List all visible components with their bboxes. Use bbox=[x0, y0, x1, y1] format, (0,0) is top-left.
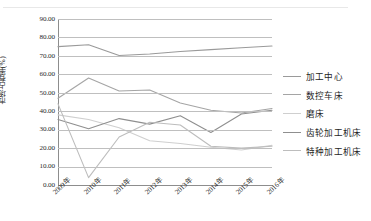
legend-item[interactable]: 齿轮加工机床 bbox=[283, 123, 371, 142]
legend-color-swatch bbox=[283, 113, 301, 114]
gridline bbox=[58, 93, 272, 94]
legend-color-swatch bbox=[283, 150, 301, 151]
gridline bbox=[58, 37, 272, 38]
y-tick-label: 30.00 bbox=[40, 125, 55, 133]
plot-area bbox=[58, 19, 272, 185]
gridline bbox=[58, 74, 272, 75]
gridline bbox=[58, 167, 272, 168]
legend-item[interactable]: 磨床 bbox=[283, 104, 371, 123]
gridline bbox=[58, 130, 272, 131]
legend-item-label: 齿轮加工机床 bbox=[306, 126, 361, 138]
gridline bbox=[58, 111, 272, 112]
legend-item[interactable]: 特种加工机床 bbox=[283, 141, 371, 160]
gridline bbox=[58, 148, 272, 149]
legend-color-swatch bbox=[283, 94, 301, 95]
y-tick-label: 50.00 bbox=[40, 89, 55, 97]
legend-item-label: 数控车床 bbox=[306, 89, 343, 101]
line-chart: 市场占有率(%) 0.0010.0020.0030.0040.0050.0060… bbox=[0, 0, 371, 221]
legend-item-label: 磨床 bbox=[306, 107, 324, 119]
y-tick-label: 70.00 bbox=[40, 52, 55, 60]
legend-item-label: 特种加工机床 bbox=[306, 145, 361, 157]
series-line bbox=[58, 45, 272, 56]
y-axis-ticks: 0.0010.0020.0030.0040.0050.0060.0070.008… bbox=[0, 0, 55, 221]
legend-color-swatch bbox=[283, 76, 301, 77]
y-tick-label: 40.00 bbox=[40, 107, 55, 115]
y-tick-label: 60.00 bbox=[40, 70, 55, 78]
y-tick-label: 90.00 bbox=[40, 15, 55, 23]
series-lines bbox=[58, 19, 272, 185]
legend-color-swatch bbox=[283, 132, 301, 133]
y-tick-label: 10.00 bbox=[40, 162, 55, 170]
chart-legend: 加工中心数控车床磨床齿轮加工机床特种加工机床 bbox=[283, 67, 371, 160]
y-tick-label: 20.00 bbox=[40, 144, 55, 152]
legend-item[interactable]: 加工中心 bbox=[283, 67, 371, 86]
legend-item[interactable]: 数控车床 bbox=[283, 86, 371, 105]
y-tick-label: 80.00 bbox=[40, 33, 55, 41]
gridline bbox=[58, 56, 272, 57]
gridline bbox=[58, 19, 272, 20]
legend-item-label: 加工中心 bbox=[306, 70, 343, 82]
series-line bbox=[58, 78, 272, 113]
